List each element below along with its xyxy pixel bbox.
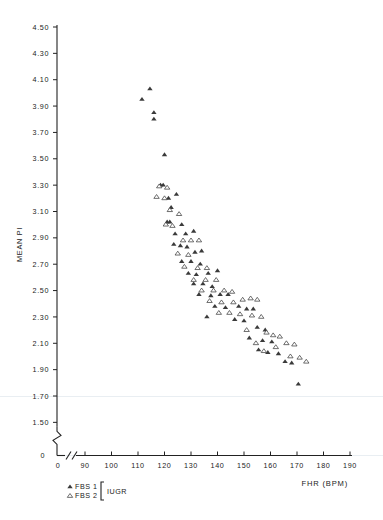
svg-text:3.10: 3.10 [33, 207, 49, 216]
data-point [288, 354, 293, 358]
data-point [162, 196, 167, 200]
data-point [255, 297, 260, 301]
legend-group-label: IUGR [107, 487, 127, 496]
data-point [180, 238, 185, 242]
svg-text:140: 140 [211, 461, 225, 470]
data-point [253, 341, 258, 345]
svg-text:4.30: 4.30 [33, 49, 49, 58]
svg-text:160: 160 [264, 461, 278, 470]
data-point [179, 222, 184, 226]
data-point [151, 110, 156, 114]
legend-open-triangle-icon [67, 494, 72, 498]
legend-brace [101, 482, 104, 500]
data-point [199, 288, 204, 292]
svg-text:190: 190 [343, 461, 357, 470]
svg-text:1.90: 1.90 [33, 365, 49, 374]
svg-text:3.30: 3.30 [33, 181, 49, 190]
legend-series2-label: FBS 2 [75, 491, 97, 500]
data-point [237, 312, 242, 316]
data-point [154, 195, 159, 199]
legend-group: FBS 1FBS 2IUGR [67, 482, 127, 500]
data-point [186, 253, 191, 257]
data-point [191, 278, 196, 282]
data-point [195, 266, 200, 270]
data-point [188, 238, 193, 242]
data-point [269, 339, 274, 343]
svg-text:4.50: 4.50 [33, 23, 49, 32]
svg-text:120: 120 [158, 461, 172, 470]
data-point [171, 242, 176, 246]
data-point [289, 361, 294, 365]
data-point [248, 296, 253, 300]
data-point [240, 297, 245, 301]
data-point [178, 243, 183, 247]
data-point [241, 318, 246, 322]
data-point [194, 272, 199, 276]
data-point [198, 262, 203, 266]
svg-text:180: 180 [317, 461, 331, 470]
data-point [175, 251, 180, 255]
data-point [296, 382, 301, 386]
svg-text:0: 0 [56, 461, 61, 470]
data-point [147, 86, 152, 90]
data-point [207, 299, 212, 303]
data-point [297, 355, 302, 359]
data-point [211, 288, 216, 292]
data-point [217, 292, 222, 296]
data-point [191, 281, 196, 285]
data-point [213, 278, 218, 282]
svg-text:2.30: 2.30 [33, 313, 49, 322]
data-point [200, 281, 205, 285]
svg-text:2.70: 2.70 [33, 260, 49, 269]
data-point [203, 278, 208, 282]
svg-text:150: 150 [237, 461, 251, 470]
data-point [196, 292, 201, 296]
data-point [244, 307, 249, 311]
data-point [172, 231, 177, 235]
data-point [204, 266, 209, 270]
data-point [221, 288, 226, 292]
data-point [276, 351, 281, 355]
scatter-plot-figure: 01.501.701.902.102.302.502.702.903.103.3… [0, 0, 383, 520]
data-points-group [139, 86, 309, 385]
data-point [284, 341, 289, 345]
data-point [273, 345, 278, 349]
data-point [216, 310, 221, 314]
data-point [292, 342, 297, 346]
data-point [212, 304, 217, 308]
data-point [231, 300, 236, 304]
data-point [219, 300, 224, 304]
svg-text:4.10: 4.10 [33, 75, 49, 84]
data-point [206, 271, 211, 275]
data-point [208, 293, 213, 297]
data-point [215, 268, 220, 272]
data-point [249, 313, 254, 317]
svg-text:90: 90 [80, 461, 89, 470]
data-point [277, 334, 282, 338]
svg-text:100: 100 [105, 461, 119, 470]
data-point [229, 289, 234, 293]
data-point [151, 117, 156, 121]
data-point [261, 349, 266, 353]
data-point [186, 271, 191, 275]
data-point [210, 284, 215, 288]
data-point [244, 328, 249, 332]
data-point [227, 310, 232, 314]
data-point [204, 314, 209, 318]
data-point [199, 249, 204, 253]
svg-text:2.90: 2.90 [33, 233, 49, 242]
data-point [139, 97, 144, 101]
data-point [255, 325, 260, 329]
x-axis-title: FHR (BPM) [302, 479, 348, 488]
data-point [259, 314, 264, 318]
data-point [251, 307, 256, 311]
data-point [162, 152, 167, 156]
data-point [282, 359, 287, 363]
svg-text:3.70: 3.70 [33, 128, 49, 137]
data-point [174, 192, 179, 196]
data-point [270, 333, 275, 337]
svg-text:110: 110 [131, 461, 144, 470]
data-point [256, 347, 261, 351]
legend-filled-triangle-icon [67, 485, 72, 489]
legend-series1-label: FBS 1 [75, 482, 97, 491]
